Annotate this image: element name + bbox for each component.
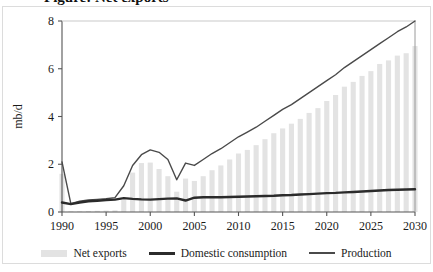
- svg-text:1995: 1995: [94, 219, 118, 233]
- legend-item-domestic-consumption: Domestic consumption: [149, 247, 287, 259]
- net-exports-swatch-icon: [41, 250, 67, 257]
- chart-legend: Net exports Domestic consumption Product…: [2, 242, 431, 264]
- production-swatch-icon: [309, 252, 335, 254]
- svg-text:1990: 1990: [50, 219, 74, 233]
- figure-container: Figure: Net exports 02468199019952000200…: [0, 0, 433, 272]
- legend-label-net-exports: Net exports: [73, 247, 126, 259]
- svg-text:2020: 2020: [315, 219, 339, 233]
- svg-text:2030: 2030: [403, 219, 427, 233]
- svg-text:2005: 2005: [182, 219, 206, 233]
- svg-text:2015: 2015: [271, 219, 295, 233]
- domestic-consumption-swatch-icon: [149, 252, 175, 255]
- legend-label-domestic-consumption: Domestic consumption: [181, 247, 287, 259]
- legend-item-net-exports: Net exports: [41, 247, 126, 259]
- svg-text:2: 2: [48, 157, 54, 171]
- svg-text:2000: 2000: [138, 219, 162, 233]
- svg-text:4: 4: [48, 110, 54, 124]
- svg-text:2010: 2010: [227, 219, 251, 233]
- chart-plot: 0246819901995200020052010201520202025203…: [0, 0, 433, 272]
- legend-label-production: Production: [341, 247, 391, 259]
- svg-text:8: 8: [48, 14, 54, 28]
- svg-text:2025: 2025: [359, 219, 383, 233]
- net-exports-bars: [59, 46, 417, 212]
- svg-text:0: 0: [48, 205, 54, 219]
- svg-text:6: 6: [48, 62, 54, 76]
- legend-item-production: Production: [309, 247, 391, 259]
- svg-text:mb/d: mb/d: [11, 104, 25, 129]
